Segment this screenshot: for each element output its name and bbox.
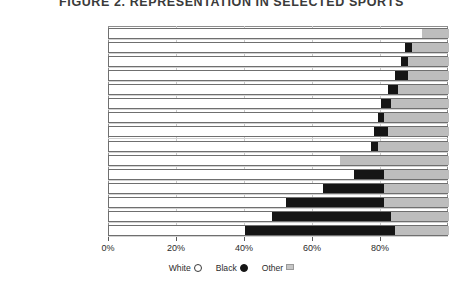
x-tick — [176, 237, 177, 241]
bar-segment-white[interactable] — [109, 71, 395, 80]
x-tick-label: 80% — [350, 243, 410, 253]
stacked-bar[interactable] — [108, 112, 448, 123]
bar-row: Men's Basketball DIII — [108, 195, 448, 209]
bar-segment-other[interactable] — [340, 156, 449, 165]
stacked-bar[interactable] — [108, 225, 448, 236]
bar-segment-white[interactable] — [109, 29, 422, 38]
x-tick — [108, 237, 109, 241]
x-tick-label: 20% — [146, 243, 206, 253]
bar-row: Men's Golf — [108, 110, 448, 124]
stacked-bar[interactable] — [108, 98, 448, 109]
figure-container: FIGURE 2. REPRESENTATION IN SELECTED SPO… — [0, 0, 463, 282]
legend-label: White — [169, 263, 191, 273]
bar-segment-other[interactable] — [378, 142, 449, 151]
bar-segment-other[interactable] — [408, 71, 449, 80]
bar-segment-white[interactable] — [109, 127, 374, 136]
bar-segment-other[interactable] — [388, 127, 449, 136]
bar-segment-black[interactable] — [388, 85, 398, 94]
x-tick — [380, 237, 381, 241]
bar-row: Men's Water Polo DIII — [108, 153, 448, 167]
x-tick — [312, 237, 313, 241]
legend-label: Other — [262, 263, 284, 273]
legend-swatch-filled-square — [286, 264, 294, 270]
bar-segment-white[interactable] — [109, 184, 323, 193]
stacked-bar[interactable] — [108, 126, 448, 137]
bar-row: Men's Football — [108, 209, 448, 223]
bar-segment-black[interactable] — [354, 170, 385, 179]
stacked-bar[interactable] — [108, 155, 448, 166]
bar-segment-black[interactable] — [405, 43, 412, 52]
bar-row: Field Hockey — [108, 82, 448, 96]
bar-segment-white[interactable] — [109, 99, 381, 108]
chart-legend: WhiteBlackOther — [0, 262, 463, 273]
stacked-bar[interactable] — [108, 183, 448, 194]
bar-segment-other[interactable] — [391, 99, 449, 108]
stacked-bar[interactable] — [108, 197, 448, 208]
x-tick-label: 40% — [214, 243, 274, 253]
bar-segment-other[interactable] — [384, 184, 449, 193]
bar-segment-other[interactable] — [412, 43, 449, 52]
stacked-bar[interactable] — [108, 70, 448, 81]
bar-segment-other[interactable] — [422, 29, 449, 38]
row-separator — [108, 236, 448, 237]
bar-segment-white[interactable] — [109, 113, 378, 122]
chart-title: FIGURE 2. REPRESENTATION IN SELECTED SPO… — [0, 0, 463, 9]
bar-segment-white[interactable] — [109, 212, 272, 221]
bar-segment-other[interactable] — [395, 226, 449, 235]
bar-segment-other[interactable] — [384, 170, 449, 179]
bar-segment-white[interactable] — [109, 85, 388, 94]
bar-segment-black[interactable] — [272, 212, 391, 221]
bar-segment-black[interactable] — [395, 71, 409, 80]
legend-item-white[interactable]: White — [169, 262, 202, 273]
stacked-bar[interactable] — [108, 84, 448, 95]
bar-segment-other[interactable] — [384, 113, 449, 122]
bar-segment-black[interactable] — [323, 184, 384, 193]
legend-label: Black — [216, 263, 237, 273]
stacked-bar[interactable] — [108, 211, 448, 222]
bar-segment-white[interactable] — [109, 170, 354, 179]
bar-segment-white[interactable] — [109, 57, 401, 66]
bar-segment-white[interactable] — [109, 156, 340, 165]
stacked-bar[interactable] — [108, 42, 448, 53]
bar-row: All Student-Athletes — [108, 167, 448, 181]
bar-segment-black[interactable] — [245, 226, 395, 235]
stacked-bar[interactable] — [108, 141, 448, 152]
bar-segment-black[interactable] — [374, 127, 388, 136]
bar-segment-white[interactable] — [109, 198, 286, 207]
stacked-bar[interactable] — [108, 28, 448, 39]
bar-row: Men's Hockey — [108, 139, 448, 153]
bar-row: Men's Lacrosse — [108, 68, 448, 82]
bar-row: Baseball — [108, 96, 448, 110]
bar-segment-black[interactable] — [381, 99, 391, 108]
legend-swatch-filled-circle — [240, 264, 248, 272]
bar-segment-black[interactable] — [371, 142, 378, 151]
stacked-bar[interactable] — [108, 169, 448, 180]
legend-swatch-open-circle — [194, 264, 202, 272]
plot-area: Men's Skiing DIIIMen's Golf DIIIWomen's … — [108, 26, 448, 237]
bar-segment-other[interactable] — [391, 212, 449, 221]
bar-segment-black[interactable] — [286, 198, 385, 207]
bar-segment-other[interactable] — [398, 85, 449, 94]
bar-segment-white[interactable] — [109, 142, 371, 151]
bar-segment-black[interactable] — [401, 57, 408, 66]
bar-segment-white[interactable] — [109, 43, 405, 52]
bar-segment-other[interactable] — [384, 198, 449, 207]
x-tick — [244, 237, 245, 241]
bar-row: Men's Basketball — [108, 223, 448, 237]
bar-row: Women's Equestrian — [108, 54, 448, 68]
stacked-bar[interactable] — [108, 56, 448, 67]
bar-row: Men's Skiing DIII — [108, 26, 448, 40]
bar-segment-white[interactable] — [109, 226, 245, 235]
x-tick-label: 0% — [78, 243, 138, 253]
legend-item-other[interactable]: Other — [262, 262, 295, 273]
bar-row: Men's Football DIII — [108, 181, 448, 195]
bar-row: Men's Golf DIII — [108, 40, 448, 54]
x-tick-label: 60% — [282, 243, 342, 253]
bar-segment-black[interactable] — [378, 113, 385, 122]
legend-item-black[interactable]: Black — [216, 262, 248, 273]
bar-row: Women's Softball — [108, 124, 448, 138]
bar-segment-other[interactable] — [408, 57, 449, 66]
